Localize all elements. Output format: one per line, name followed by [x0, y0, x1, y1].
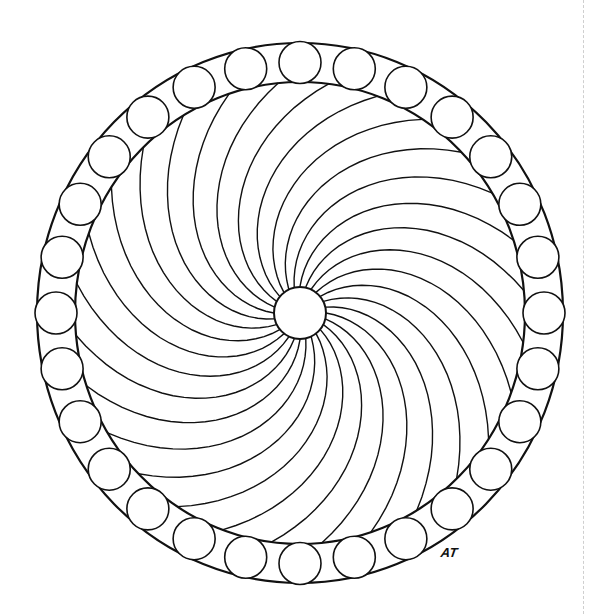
- ring-circle: [499, 183, 541, 225]
- ring-circle: [523, 292, 565, 334]
- ring-circle: [127, 488, 169, 530]
- ring-circle: [385, 518, 427, 560]
- spiral-arm: [217, 83, 278, 307]
- ring-circle: [470, 136, 512, 178]
- spiral-arm: [323, 298, 460, 479]
- ring-circle: [59, 401, 101, 443]
- ring-circle: [470, 448, 512, 490]
- ring-circle: [517, 236, 559, 278]
- ring-circle: [225, 536, 267, 578]
- mandala-artwork: [0, 0, 591, 614]
- ring-circle: [499, 401, 541, 443]
- page-edge-dashed-line: [583, 0, 584, 614]
- ring-circle: [385, 66, 427, 108]
- ring-circle: [41, 348, 83, 390]
- ring-circle: [41, 236, 83, 278]
- ring-circle: [225, 48, 267, 90]
- spiral-arm: [138, 337, 314, 477]
- ring-circle: [431, 488, 473, 530]
- spiral-arm: [285, 149, 461, 289]
- center-hub-circle: [274, 287, 326, 339]
- ring-circle: [431, 96, 473, 138]
- spiral-arm: [140, 147, 277, 328]
- ring-circle: [127, 96, 169, 138]
- ring-circle: [333, 536, 375, 578]
- ring-circle: [35, 292, 77, 334]
- ring-circle: [517, 348, 559, 390]
- ring-circle: [88, 448, 130, 490]
- ring-circle: [173, 66, 215, 108]
- ring-circle: [173, 518, 215, 560]
- ring-circle: [279, 42, 321, 84]
- spiral-arm: [322, 319, 383, 543]
- spiral-arm: [306, 228, 524, 291]
- ring-circle: [333, 48, 375, 90]
- ring-circle: [88, 136, 130, 178]
- artist-signature: AT: [440, 545, 458, 560]
- ring-circle: [279, 543, 321, 585]
- spiral-arm: [76, 335, 294, 398]
- ring-circle: [59, 183, 101, 225]
